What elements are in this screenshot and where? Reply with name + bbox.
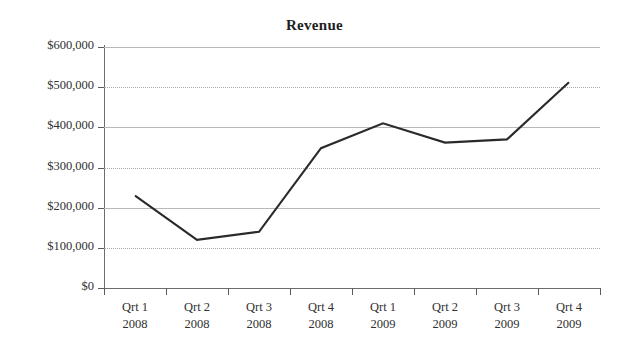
x-axis-tick: [352, 288, 353, 295]
x-axis-label-quarter: Qrt 3: [472, 299, 542, 316]
x-axis-label: Qrt 22009: [410, 299, 480, 333]
gridline: [104, 248, 600, 249]
x-axis-label-quarter: Qrt 3: [224, 299, 294, 316]
y-axis-label: $300,000: [4, 159, 94, 174]
gridline: [104, 87, 600, 88]
x-axis-label-quarter: Qrt 4: [534, 299, 604, 316]
x-axis-label-quarter: Qrt 2: [162, 299, 232, 316]
x-axis-label-year: 2009: [348, 316, 418, 333]
x-axis-tick: [166, 288, 167, 295]
y-axis-label: $0: [4, 279, 94, 294]
plot-area: [104, 47, 600, 288]
y-axis-tick: [98, 168, 104, 169]
y-axis-tick: [98, 127, 104, 128]
revenue-line-chart: Revenue $600,000$500,000$400,000$300,000…: [0, 0, 629, 361]
x-axis-tick: [538, 288, 539, 295]
x-axis-label-year: 2008: [100, 316, 170, 333]
x-axis-label-year: 2008: [224, 316, 294, 333]
gridline: [104, 47, 600, 48]
y-axis-tick: [98, 47, 104, 48]
x-axis-label-year: 2008: [286, 316, 356, 333]
x-axis-label-year: 2009: [410, 316, 480, 333]
x-axis-label-quarter: Qrt 1: [100, 299, 170, 316]
y-axis-label: $200,000: [4, 199, 94, 214]
y-axis-label: $500,000: [4, 78, 94, 93]
y-axis-tick: [98, 87, 104, 88]
x-axis-tick: [600, 288, 601, 295]
x-axis-label-quarter: Qrt 2: [410, 299, 480, 316]
x-axis-label-year: 2009: [472, 316, 542, 333]
gridline: [104, 127, 600, 128]
x-axis-label: Qrt 12009: [348, 299, 418, 333]
x-axis-tick: [476, 288, 477, 295]
x-axis-label: Qrt 22008: [162, 299, 232, 333]
x-axis-label: Qrt 32009: [472, 299, 542, 333]
x-axis-tick: [104, 288, 105, 295]
y-axis-tick: [98, 248, 104, 249]
x-axis-label-year: 2008: [162, 316, 232, 333]
x-axis-label: Qrt 42009: [534, 299, 604, 333]
x-axis-label: Qrt 42008: [286, 299, 356, 333]
chart-title: Revenue: [0, 17, 629, 34]
x-axis-tick: [228, 288, 229, 295]
y-axis-tick: [98, 208, 104, 209]
x-axis-tick: [290, 288, 291, 295]
x-axis-label-quarter: Qrt 4: [286, 299, 356, 316]
x-axis-label: Qrt 32008: [224, 299, 294, 333]
y-axis-label: $100,000: [4, 239, 94, 254]
x-axis-label-quarter: Qrt 1: [348, 299, 418, 316]
gridline: [104, 168, 600, 169]
y-axis-label: $600,000: [4, 38, 94, 53]
x-axis-tick: [414, 288, 415, 295]
x-axis-label: Qrt 12008: [100, 299, 170, 333]
gridline: [104, 208, 600, 209]
x-axis-label-year: 2009: [534, 316, 604, 333]
y-axis-label: $400,000: [4, 118, 94, 133]
